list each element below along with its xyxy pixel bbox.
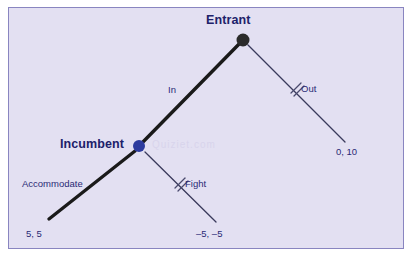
node-incumbent bbox=[133, 140, 145, 152]
diagram-canvas: Quiziet.com Entrant Incumbent In Out Acc… bbox=[0, 0, 412, 257]
payoff-fight: –5, –5 bbox=[196, 228, 222, 239]
node-entrant bbox=[237, 34, 250, 47]
branch-line-in bbox=[139, 40, 243, 146]
node-label-incumbent: Incumbent bbox=[60, 137, 124, 151]
node-label-entrant: Entrant bbox=[206, 13, 250, 27]
branch-label-accommodate: Accommodate bbox=[22, 178, 83, 189]
payoff-out: 0, 10 bbox=[336, 146, 357, 157]
branch-label-in: In bbox=[168, 84, 176, 95]
payoff-accommodate: 5, 5 bbox=[26, 228, 42, 239]
branch-label-out: Out bbox=[301, 83, 316, 94]
branch-label-fight: Fight bbox=[185, 178, 206, 189]
game-tree-svg bbox=[0, 0, 412, 257]
